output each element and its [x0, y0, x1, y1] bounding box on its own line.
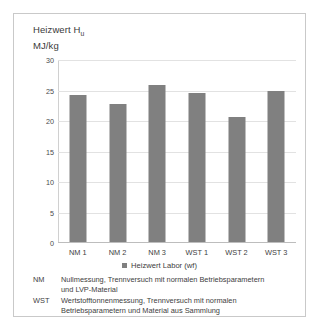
- footnote-text: Nullmessung, Trennversuch mit normalen B…: [61, 275, 295, 296]
- gridline: [58, 60, 296, 61]
- x-axis-tick-label: WST 1: [186, 248, 208, 257]
- chart-title-subscript: u: [80, 30, 84, 37]
- footnote-row: WSTWertstofftonnenmessung, Trennversuch …: [33, 296, 295, 317]
- chart-footnotes: NMNullmessung, Trennversuch mit normalen…: [33, 275, 295, 317]
- footnote-line: Nullmessung, Trennversuch mit normalen B…: [61, 275, 295, 285]
- y-axis-tick-label: 15: [46, 147, 54, 156]
- bar[interactable]: [268, 91, 285, 242]
- bar[interactable]: [228, 117, 245, 242]
- bar[interactable]: [69, 95, 86, 242]
- plot-area: 051015202530 NM 1NM 2NM 3WST 1WST 2WST 3: [58, 60, 296, 243]
- bar[interactable]: [149, 85, 166, 242]
- legend-square-marker-icon: [122, 263, 127, 268]
- gridline: [58, 182, 296, 183]
- legend-label: Heizwert Labor (wf): [131, 261, 197, 270]
- chart-title: Heizwert Hu MJ/kg: [33, 24, 84, 53]
- y-axis-tick-label: 10: [46, 178, 54, 187]
- gridline: [58, 152, 296, 153]
- chart-unit-label: MJ/kg: [33, 40, 84, 53]
- y-axis-tick-label: 20: [46, 117, 54, 126]
- y-axis-tick-label: 0: [50, 239, 54, 248]
- y-axis-tick-label: 25: [46, 86, 54, 95]
- footnote-key: WST: [33, 296, 61, 306]
- x-axis-tick-label: NM 1: [69, 248, 87, 257]
- x-axis-line: [58, 242, 296, 243]
- x-axis-tick-label: WST 3: [265, 248, 287, 257]
- bar[interactable]: [109, 104, 126, 242]
- footnote-row: NMNullmessung, Trennversuch mit normalen…: [33, 275, 295, 296]
- chart-figure-frame: Heizwert Hu MJ/kg 051015202530 NM 1NM 2N…: [13, 13, 306, 317]
- chart-title-text: Heizwert H: [33, 24, 80, 35]
- y-axis-tick-label: 5: [50, 208, 54, 217]
- gridline: [58, 91, 296, 92]
- y-axis-tick-label: 30: [46, 56, 54, 65]
- chart-legend: Heizwert Labor (wf): [14, 261, 305, 270]
- gridline: [58, 121, 296, 122]
- footnote-line: Betriebsparametern und Material aus Samm…: [61, 306, 295, 316]
- x-axis-tick-label: NM 3: [148, 248, 166, 257]
- bar[interactable]: [188, 93, 205, 242]
- x-axis-tick-label: WST 2: [225, 248, 247, 257]
- footnote-line: Wertstofftonnenmessung, Trennversuch mit…: [61, 296, 295, 306]
- footnote-key: NM: [33, 275, 61, 285]
- gridline: [58, 213, 296, 214]
- x-axis-tick-label: NM 2: [109, 248, 127, 257]
- footnote-text: Wertstofftonnenmessung, Trennversuch mit…: [61, 296, 295, 317]
- chart-title-main: Heizwert Hu: [33, 24, 84, 40]
- footnote-line: im Gebiet mit versuchsweise eingeführter…: [61, 316, 295, 317]
- footnote-line: und LVP-Material: [61, 285, 295, 295]
